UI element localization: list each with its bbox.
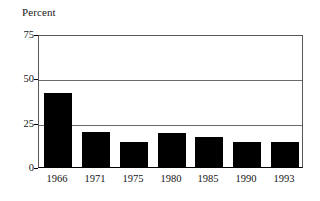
x-tick-label: 1985 [189,173,227,185]
y-tick-label: 25 [24,119,35,129]
bar [82,132,110,167]
bar [195,137,223,167]
x-tick-label: 1975 [114,173,152,185]
x-tick-label: 1966 [38,173,76,185]
bar-chart-figure: Percent 0255075 196619711975198019851990… [0,0,320,201]
plot-area [38,35,303,168]
bar [271,142,299,167]
y-tick-label: 50 [24,74,35,84]
bar [158,133,186,167]
y-tick-mark [34,168,38,169]
x-tick-label: 1993 [265,173,303,185]
y-tick-mark [34,79,38,80]
y-tick-mark [34,35,38,36]
bars-series [39,36,302,167]
x-tick-label: 1980 [152,173,190,185]
y-tick-mark [34,124,38,125]
y-tick-label: 75 [24,30,35,40]
bar [233,142,261,167]
bar [44,93,72,167]
y-axis-tick-labels: 0255075 [6,0,34,201]
x-tick-label: 1990 [227,173,265,185]
x-tick-label: 1971 [76,173,114,185]
x-axis-tick-labels: 1966197119751980198519901993 [38,173,303,189]
bar [120,142,148,167]
